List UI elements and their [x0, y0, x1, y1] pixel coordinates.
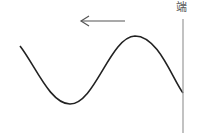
wave-curve: [20, 36, 183, 104]
diagram-canvas: [0, 0, 203, 133]
wave-reflection-diagram: 端: [0, 0, 203, 133]
arrow-left-icon: [81, 16, 125, 26]
wall-label: 端: [176, 2, 187, 14]
